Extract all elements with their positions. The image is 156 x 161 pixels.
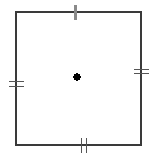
geometry-figure-canvas: [0, 0, 156, 161]
figure-background: [0, 0, 156, 161]
center-point-dot: [73, 73, 80, 80]
figure-svg: [0, 0, 156, 161]
